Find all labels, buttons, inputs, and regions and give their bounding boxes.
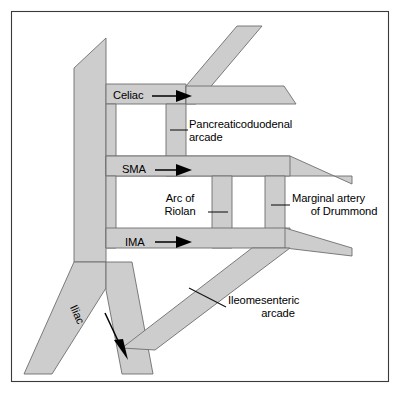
ileomesenteric-line-2: arcade: [228, 307, 328, 320]
label-celiac: Celiac: [113, 89, 144, 102]
aorta-upper-vessel: [74, 38, 106, 262]
ileomesenteric-line-1: Ileomesenteric: [228, 294, 328, 307]
aorta-lower-left-vessel: [24, 262, 106, 374]
marginal-artery-line-2: of Drummond: [292, 205, 396, 218]
label-marginal-artery-of-drummond: Marginal artery of Drummond: [292, 192, 396, 217]
iliac-vessel: [106, 262, 153, 374]
pancreaticoduodenal-line-1: Pancreaticoduodenal arcade: [189, 118, 313, 143]
label-ileomesenteric-arcade: Ileomesenteric arcade: [228, 294, 328, 319]
celiac-right-branch-vessel: [186, 86, 296, 104]
arc-of-riolan-line-2: Riolan: [152, 205, 208, 218]
arc-of-riolan-line-1: Arc of: [152, 192, 208, 205]
label-pancreaticoduodenal-arcade: Pancreaticoduodenal arcade: [189, 118, 313, 143]
ima-right-taper-vessel: [285, 228, 352, 256]
label-ima: IMA: [125, 236, 145, 249]
marginal-artery-line-1: Marginal artery: [292, 192, 396, 205]
figure-root: Celiac SMA IMA Iliac Pancreaticoduodenal…: [0, 0, 400, 411]
label-arc-of-riolan: Arc of Riolan: [152, 192, 208, 217]
label-sma: SMA: [122, 163, 146, 176]
